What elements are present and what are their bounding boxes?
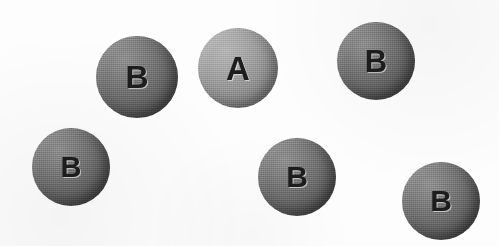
diagram-canvas: ABBBBB [0, 0, 499, 246]
sphere-label: B [125, 61, 148, 93]
sphere-label: B [286, 162, 308, 192]
sphere-a-top-center: A [198, 28, 278, 108]
sphere-b-bottom-right: B [402, 162, 480, 240]
sphere-label: B [365, 46, 387, 77]
sphere-label: B [61, 153, 82, 182]
sphere-b-bottom-center: B [258, 138, 336, 216]
sphere-b-top-right: B [337, 22, 415, 100]
sphere-b-bottom-left: B [32, 128, 110, 206]
sphere-b-top-left: B [96, 36, 178, 118]
sphere-label: A [226, 52, 250, 85]
sphere-label: B [430, 186, 452, 216]
